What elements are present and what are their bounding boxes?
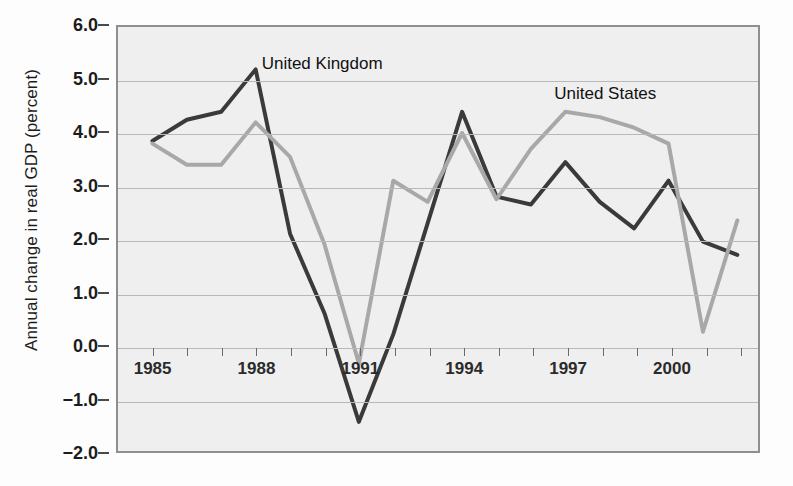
- y-axis-tick-mark: [98, 238, 109, 240]
- x-axis-tick-mark: [672, 348, 673, 356]
- series-svg: [118, 27, 758, 451]
- x-axis-tick-mark: [153, 348, 154, 356]
- gridline: [118, 402, 758, 403]
- x-axis-tick-mark: [568, 348, 569, 356]
- x-axis-tick-mark: [187, 348, 188, 356]
- y-axis-tick-label: 0.0: [34, 336, 98, 357]
- x-axis-tick-mark: [603, 348, 604, 356]
- plot-area: 198519881991199419972000United KingdomUn…: [116, 25, 760, 453]
- y-axis-tick-mark: [98, 185, 109, 187]
- x-axis-tick-label: 2000: [653, 359, 691, 379]
- y-axis-tick-label: 2.0: [34, 229, 98, 250]
- x-axis-tick-mark: [464, 348, 465, 356]
- x-axis-tick-mark: [533, 348, 534, 356]
- series-annotation-united-kingdom: United Kingdom: [262, 54, 383, 74]
- x-axis-tick-mark: [707, 348, 708, 356]
- y-axis-tick-group: 6.05.04.03.02.01.00.0−1.0−2.0: [30, 0, 98, 486]
- x-axis-tick-mark: [256, 348, 257, 356]
- y-axis-tick-label: 6.0: [34, 15, 98, 36]
- x-axis-tick-mark: [291, 348, 292, 356]
- y-axis-tick-mark: [98, 78, 109, 80]
- y-axis-tick-mark: [98, 24, 109, 26]
- y-axis-tick-label: 3.0: [34, 175, 98, 196]
- x-axis-tick-mark: [430, 348, 431, 356]
- gridline: [118, 81, 758, 82]
- x-axis-tick-mark: [499, 348, 500, 356]
- x-axis-tick-label: 1991: [341, 359, 379, 379]
- series-annotation-united-states: United States: [554, 84, 656, 104]
- x-axis-tick-label: 1997: [549, 359, 587, 379]
- y-axis-tick-label: 5.0: [34, 68, 98, 89]
- x-axis-tick-mark: [222, 348, 223, 356]
- y-axis-tick-label: −2.0: [34, 443, 98, 464]
- y-axis-tick-label: 4.0: [34, 122, 98, 143]
- y-axis-tick-mark: [98, 345, 109, 347]
- gridline: [118, 134, 758, 135]
- x-axis-tick-label: 1988: [238, 359, 276, 379]
- x-axis-tick-label: 1985: [134, 359, 172, 379]
- y-axis-tick-mark: [98, 131, 109, 133]
- gridline: [118, 188, 758, 189]
- y-axis-tick-label: 1.0: [34, 282, 98, 303]
- x-axis-tick-label: 1994: [445, 359, 483, 379]
- gridline: [118, 295, 758, 296]
- y-axis-tick-mark: [98, 399, 109, 401]
- y-axis-tick-mark: [98, 292, 109, 294]
- gridline: [118, 348, 758, 349]
- x-axis-tick-mark: [326, 348, 327, 356]
- gridline: [118, 241, 758, 242]
- y-axis-tick-mark: [98, 452, 109, 454]
- x-axis-tick-mark: [395, 348, 396, 356]
- x-axis-tick-mark: [741, 348, 742, 356]
- x-axis-tick-mark: [360, 348, 361, 356]
- y-axis-tick-label: −1.0: [34, 389, 98, 410]
- gdp-line-chart: Annual change in real GDP (percent) 6.05…: [0, 0, 793, 486]
- x-axis-tick-mark: [637, 348, 638, 356]
- series-line-united-states: [152, 112, 737, 364]
